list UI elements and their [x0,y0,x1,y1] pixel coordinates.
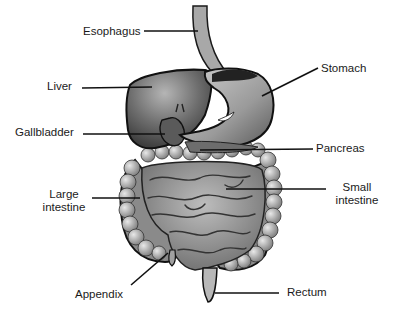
label-rectum: Rectum [287,286,327,299]
rectum-organ [203,268,217,302]
liver-leader-line [82,87,152,88]
label-gallbladder: Gallbladder [15,126,74,139]
label-esophagus: Esophagus [83,25,141,38]
stomach-leader-line [262,68,318,96]
appendix-organ [169,250,175,266]
label-liver: Liver [47,80,72,93]
pancreas-leader-line [200,149,313,150]
label-small-intestine-line2: intestine [333,194,381,207]
label-large-intestine: Large intestine [40,188,88,214]
label-large-intestine-line2: intestine [40,201,88,214]
label-appendix: Appendix [75,288,123,301]
label-small-intestine-line1: Small [333,181,381,194]
anatomy-illustration [0,0,403,322]
label-stomach: Stomach [321,62,366,75]
digestive-system-diagram: Esophagus Liver Gallbladder Stomach Panc… [0,0,403,322]
label-large-intestine-line1: Large [40,188,88,201]
label-small-intestine: Small intestine [333,181,381,207]
label-pancreas: Pancreas [316,142,365,155]
esophagus-organ [193,6,228,74]
